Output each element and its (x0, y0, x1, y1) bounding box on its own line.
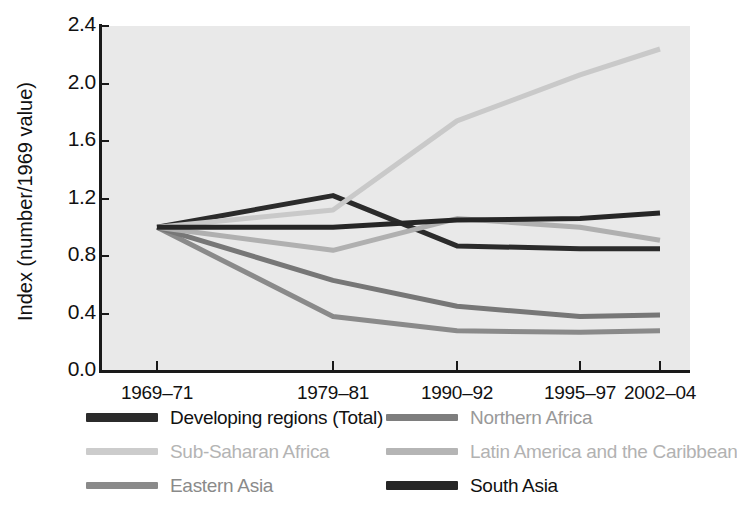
legend-column-left: Developing regions (Total)Sub-Saharan Af… (86, 400, 386, 502)
y-tick-label: 2.4 (44, 12, 96, 36)
legend-item: South Asia (386, 468, 696, 502)
y-tick-label: 1.2 (44, 185, 96, 209)
legend-swatch (386, 448, 458, 455)
legend-column-right: Northern AfricaLatin America and the Car… (386, 400, 696, 502)
legend-swatch (86, 482, 158, 489)
y-tick-label: 2.0 (44, 70, 96, 94)
x-tick-mark (156, 361, 158, 371)
legend-item: Eastern Asia (86, 468, 386, 502)
legend-swatch (386, 481, 458, 490)
legend-item: Developing regions (Total) (86, 400, 386, 434)
x-tick-mark (456, 361, 458, 371)
y-axis-title: Index (number/1969 value) (14, 37, 37, 367)
legend-label: Eastern Asia (170, 476, 273, 495)
legend-label: Northern Africa (470, 408, 592, 427)
legend-swatch (86, 413, 158, 422)
y-tick-mark (100, 140, 109, 142)
x-axis-line (99, 370, 690, 373)
y-tick-mark (100, 313, 109, 315)
y-tick-mark (100, 25, 109, 27)
x-tick-mark (332, 361, 334, 371)
x-tick-mark (659, 361, 661, 371)
legend-label: Latin America and the Caribbean (470, 442, 737, 461)
legend-item: Northern Africa (386, 400, 696, 434)
y-tick-mark (100, 198, 109, 200)
x-tick-mark (579, 361, 581, 371)
legend-label: South Asia (470, 476, 558, 495)
legend-label: Sub-Saharan Africa (170, 442, 329, 461)
y-tick-label: 1.6 (44, 127, 96, 151)
y-tick-label: 0.8 (44, 242, 96, 266)
y-tick-mark (100, 255, 109, 257)
y-tick-mark (100, 370, 109, 372)
chart-legend: Developing regions (Total)Sub-Saharan Af… (86, 400, 696, 512)
plot-area-background (100, 26, 690, 371)
legend-swatch (386, 414, 458, 421)
y-tick-mark (100, 83, 109, 85)
legend-label: Developing regions (Total) (170, 408, 383, 427)
y-tick-label: 0.4 (44, 300, 96, 324)
legend-swatch (86, 448, 158, 455)
legend-item: Latin America and the Caribbean (386, 434, 696, 468)
legend-item: Sub-Saharan Africa (86, 434, 386, 468)
y-tick-label: 0.0 (44, 357, 96, 381)
